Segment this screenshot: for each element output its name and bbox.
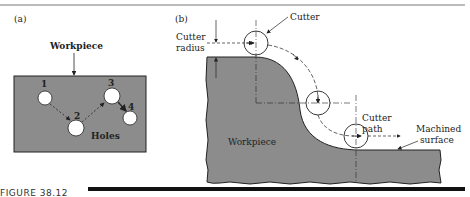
cutter-path-label-1: Cutter	[362, 113, 392, 123]
hole-2	[68, 120, 84, 136]
hole-1	[38, 91, 52, 105]
panel-b-label: (b)	[175, 14, 188, 24]
panel-a: (a) Workpiece 1 2 3 4 Holes	[14, 14, 146, 152]
machined-surface-leader	[398, 141, 418, 149]
cutter-leader	[267, 17, 288, 33]
hole-number-1: 1	[41, 79, 47, 89]
figure-canvas: (a) Workpiece 1 2 3 4 Holes (b) Cutter r…	[0, 0, 470, 197]
figure-caption: FIGURE 38.12	[0, 188, 68, 197]
machined-surface-label-1: Machined	[416, 124, 461, 134]
bottom-rule	[88, 187, 465, 191]
hole-number-4: 4	[128, 102, 134, 112]
hole-3	[104, 88, 120, 104]
cutter-label: Cutter	[290, 12, 320, 22]
hole-4	[123, 111, 137, 125]
hole-number-3: 3	[108, 78, 114, 88]
panel-b: (b) Cutter radius Cutter Workpiece Cutte…	[175, 12, 461, 184]
hole-number-2: 2	[74, 111, 80, 121]
panel-a-workpiece-label: Workpiece	[49, 41, 103, 51]
panel-b-workpiece-label: Workpiece	[228, 137, 276, 147]
machined-surface-label-2: surface	[420, 135, 454, 145]
holes-label: Holes	[91, 131, 120, 141]
workpiece-profile	[206, 57, 441, 184]
panel-a-label: (a)	[14, 14, 26, 24]
cutter-path-label-2: path	[362, 124, 383, 134]
cutter-path-arrow-1	[293, 54, 298, 60]
cutter-path-arc-2	[318, 115, 354, 136]
cutter-radius-label-1: Cutter	[176, 32, 206, 42]
cutter-radius-label-2: radius	[176, 43, 205, 53]
